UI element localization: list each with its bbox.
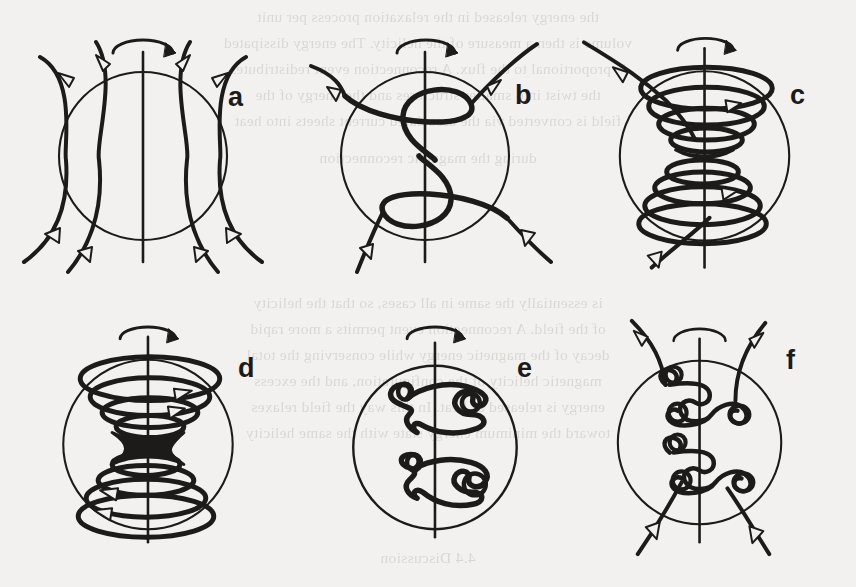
figure-magnetic-field-evolution: the energy released in the relaxation pr…	[0, 0, 856, 587]
rotation-arrow-head	[724, 40, 736, 54]
panel-c: c	[570, 0, 855, 293]
panel-label-f: f	[786, 347, 795, 374]
rotation-arrow-head	[454, 329, 466, 343]
coil-stack-upper	[80, 357, 220, 438]
knot-lower	[665, 438, 751, 494]
arrowhead	[634, 331, 648, 346]
coil-stack-lower	[78, 453, 214, 537]
rotation-arrow-head	[167, 329, 179, 343]
field-line-open	[357, 212, 383, 272]
coil-stack-lower	[639, 160, 767, 244]
flux-rope-lower	[401, 454, 487, 505]
rotation-arrow-head	[164, 43, 176, 57]
field-line	[68, 42, 106, 272]
panel-label-e: e	[517, 355, 532, 382]
panel-d: d	[0, 293, 285, 586]
field-line	[180, 42, 218, 272]
panel-grid: a	[0, 0, 856, 587]
rotation-arrow-head	[446, 43, 458, 57]
rotation-arrow	[397, 40, 455, 53]
panel-f: f	[570, 293, 855, 586]
panel-label-c: c	[790, 82, 805, 109]
field-line-open	[638, 482, 682, 554]
panel-label-d: d	[238, 355, 255, 382]
panel-a: a	[0, 0, 285, 293]
arrowhead	[94, 508, 112, 520]
panel-label-a: a	[228, 84, 243, 111]
helical-turn-upper	[345, 90, 472, 160]
arrowhead	[327, 87, 341, 101]
field-line-open	[727, 488, 769, 554]
panel-label-b: b	[515, 82, 532, 109]
panel-e: e	[285, 293, 570, 586]
helical-turn-lower	[382, 156, 507, 226]
panel-b: b	[285, 0, 570, 293]
coil-stack-upper	[641, 67, 773, 152]
